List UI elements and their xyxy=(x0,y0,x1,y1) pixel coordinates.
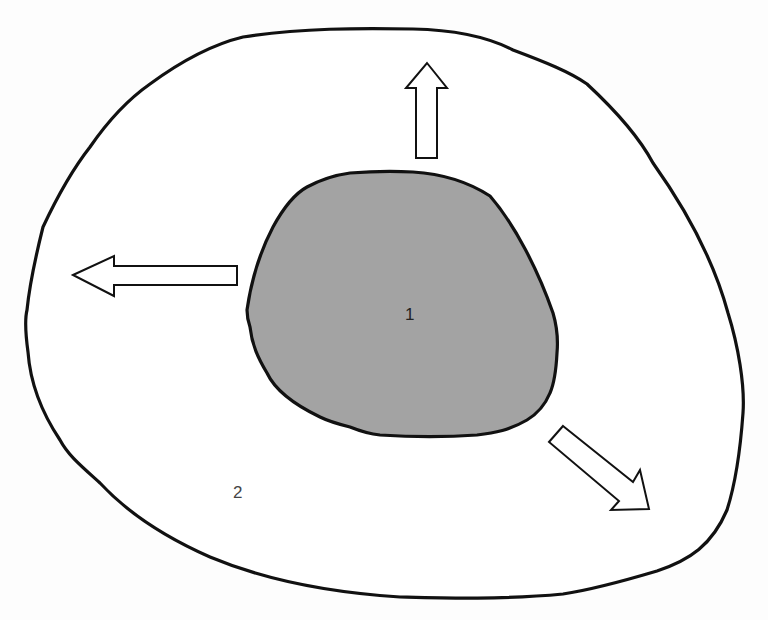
diagram-canvas: 1 2 xyxy=(0,0,768,620)
inner-region-label: 1 xyxy=(405,306,414,323)
diagram-figure xyxy=(0,0,768,620)
outer-region-label: 2 xyxy=(233,484,242,501)
